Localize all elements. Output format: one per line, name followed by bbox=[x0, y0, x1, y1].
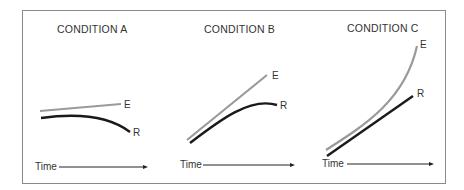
curve-e bbox=[187, 75, 267, 140]
label-r: R bbox=[417, 88, 424, 99]
curve-e bbox=[40, 104, 121, 111]
label-e: E bbox=[124, 99, 131, 110]
curve-r bbox=[327, 96, 413, 156]
time-arrow-head bbox=[143, 165, 148, 169]
time-arrow-head bbox=[290, 163, 295, 167]
curve-r bbox=[41, 116, 130, 132]
label-r: R bbox=[133, 127, 140, 138]
x-axis-label: Time bbox=[35, 161, 57, 172]
panel-condition-c: CONDITION C E R Time bbox=[322, 22, 434, 169]
label-e: E bbox=[420, 39, 427, 50]
panel-title: CONDITION C bbox=[347, 22, 419, 34]
label-r: R bbox=[280, 100, 287, 111]
label-e: E bbox=[272, 70, 279, 81]
panel-condition-b: CONDITION B E R Time bbox=[180, 23, 295, 170]
x-axis-label: Time bbox=[180, 159, 202, 170]
x-axis-label: Time bbox=[322, 158, 344, 169]
time-arrow-head bbox=[429, 162, 434, 166]
panel-condition-a: CONDITION A E R Time bbox=[35, 23, 148, 172]
curve-r bbox=[190, 103, 277, 143]
panel-title: CONDITION A bbox=[57, 23, 127, 35]
panel-title: CONDITION B bbox=[204, 23, 275, 35]
curve-e bbox=[326, 46, 417, 150]
conditions-diagram: CONDITION A E R Time CONDITION B E R Tim… bbox=[0, 0, 464, 190]
